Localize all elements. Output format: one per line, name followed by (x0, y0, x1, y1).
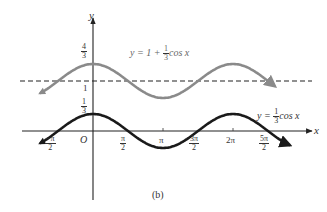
label-lower-curve: y = 13cos x (257, 108, 299, 125)
x-tick-pi-over-2: π2 (120, 135, 126, 152)
x-tick-2pi: 2π (226, 136, 235, 145)
figure-caption: (b) (152, 190, 164, 200)
label-upper-curve: y = 1 + 13cos x (130, 45, 189, 62)
y-tick-1-3: 13 (81, 98, 87, 115)
y-axis-label: y (89, 10, 94, 21)
x-tick-5pi-over-2: 5π2 (259, 135, 269, 152)
x-tick-neg-pi-over-2: −π2 (45, 135, 56, 152)
y-tick-1: 1 (83, 84, 88, 93)
y-tick-4-3: 43 (81, 43, 87, 60)
x-tick-3pi-over-2: 3π2 (189, 135, 199, 152)
x-tick-pi: π (159, 136, 164, 145)
origin-label: O (80, 135, 87, 145)
graph-canvas (0, 0, 327, 212)
x-axis-label: x (314, 125, 319, 136)
